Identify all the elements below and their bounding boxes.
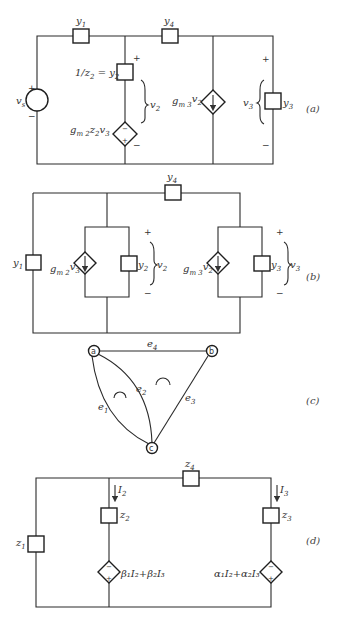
svg-text:1/z2 = y2: 1/z2 = y2 (75, 67, 120, 81)
y3-admittance (265, 93, 281, 109)
z4-impedance (183, 471, 199, 486)
svg-text:gm 2z2v3: gm 2z2v3 (70, 124, 110, 138)
svg-text:+: + (276, 227, 284, 237)
y4-admittance (162, 29, 178, 43)
v2-brace (141, 80, 148, 123)
svg-text:v2: v2 (157, 259, 168, 273)
panel-tag-c: (c) (306, 395, 320, 406)
svg-text:e1: e1 (98, 401, 108, 415)
svg-text:α₁I₂+α₂I₃: α₁I₂+α₂I₃ (214, 568, 260, 579)
svg-text:+: + (122, 137, 128, 145)
y1-admittance (73, 29, 89, 43)
svg-text:b: b (209, 347, 214, 356)
svg-text:y4: y4 (166, 171, 177, 185)
z2-impedance (101, 508, 117, 523)
y3-admittance (254, 256, 270, 271)
svg-text:I3: I3 (279, 484, 289, 498)
z1-impedance (28, 536, 44, 552)
svg-text:v3: v3 (290, 259, 301, 273)
panel-b: y1 y4 gm 2v3 y2 + − v2 gm 3v2 y3 + − v3 … (12, 171, 320, 333)
svg-text:−: − (28, 111, 36, 121)
svg-text:c: c (149, 444, 153, 453)
svg-text:z2: z2 (119, 509, 130, 523)
svg-text:e3: e3 (185, 392, 196, 406)
y2-admittance (117, 64, 133, 80)
y4-admittance (165, 185, 181, 200)
svg-text:y3: y3 (270, 259, 282, 273)
v2-brace (150, 242, 157, 285)
svg-text:y1: y1 (75, 15, 86, 29)
svg-text:z1: z1 (15, 537, 26, 551)
v3-brace (257, 80, 264, 124)
svg-text:+: + (28, 83, 36, 93)
svg-text:z3: z3 (281, 509, 292, 523)
svg-text:z4: z4 (184, 458, 195, 472)
svg-text:I2: I2 (117, 484, 127, 498)
panel-tag-d: (d) (306, 535, 320, 546)
svg-text:−: − (144, 288, 152, 298)
mesh-loop-icon (114, 392, 126, 398)
z3-impedance (263, 508, 279, 523)
svg-text:y4: y4 (163, 15, 174, 29)
svg-text:e2: e2 (136, 383, 147, 397)
panel-c: a b c e4 e3 e2 e1 (c) (89, 338, 320, 454)
panel-d: z1 z4 I2 z2 I3 z3 − + β₁I₂+β₂I₃ − + α₁I₂… (15, 458, 320, 607)
svg-text:y2: y2 (137, 259, 149, 273)
svg-text:+: + (133, 53, 141, 63)
panel-tag-a: (a) (306, 103, 320, 114)
svg-text:−: − (133, 140, 141, 150)
edge-e3 (154, 356, 208, 443)
svg-text:+: + (106, 575, 112, 583)
svg-text:−: − (268, 563, 274, 571)
svg-text:v2: v2 (150, 99, 161, 113)
panel-a: + − vs y1 y4 + 1/z2 = y2 v2 − + − gm 2z2… (16, 15, 320, 164)
svg-text:gm 3v2: gm 3v2 (172, 93, 202, 109)
svg-text:v3: v3 (243, 97, 254, 111)
svg-text:y1: y1 (12, 257, 23, 271)
svg-text:−: − (106, 563, 112, 571)
svg-text:β₁I₂+β₂I₃: β₁I₂+β₂I₃ (120, 568, 165, 579)
svg-text:vs: vs (16, 95, 26, 109)
y2-admittance (121, 256, 137, 271)
panel-tag-b: (b) (306, 271, 320, 282)
circuit-figure: + − vs y1 y4 + 1/z2 = y2 v2 − + − gm 2z2… (0, 0, 339, 619)
svg-text:+: + (262, 54, 270, 64)
mesh-loop-icon (156, 378, 170, 385)
edge-e2 (98, 354, 152, 443)
svg-text:e4: e4 (147, 338, 157, 352)
y1-admittance (26, 255, 41, 270)
svg-text:−: − (276, 288, 284, 298)
svg-text:−: − (122, 125, 128, 133)
svg-text:+: + (268, 575, 274, 583)
svg-text:a: a (91, 347, 96, 356)
svg-text:y3: y3 (282, 97, 294, 111)
svg-text:+: + (144, 227, 152, 237)
svg-text:−: − (262, 140, 270, 150)
